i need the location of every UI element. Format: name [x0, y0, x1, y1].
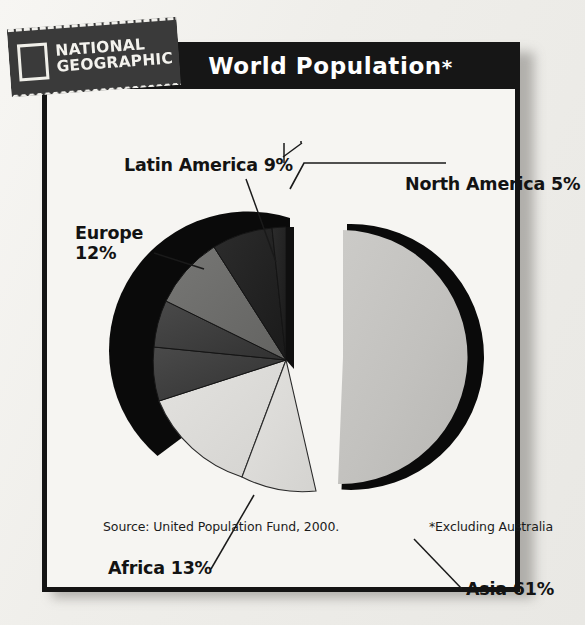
label-africa: Africa 13% [108, 559, 212, 579]
label-north-america: North America 5% [405, 175, 580, 195]
chart-panel: Latin America 9% North America 5% Europe… [42, 42, 520, 592]
page-title: World Population* [194, 53, 453, 79]
label-europe: Europe 12% [75, 224, 143, 263]
ng-yellow-rectangle-icon [17, 42, 50, 81]
national-geographic-logo: NATIONAL GEOGRAPHIC [7, 17, 182, 97]
label-asia: Asia 61% [466, 580, 554, 600]
title-footnote-marker: * [442, 55, 453, 79]
label-latin-america: Latin America 9% [124, 156, 293, 176]
pie-cut-face [286, 227, 294, 369]
logo-stamp-background: NATIONAL GEOGRAPHIC [7, 17, 182, 97]
chart-title-bar: World Population* [127, 42, 520, 89]
chart-footer: Source: United Population Fund, 2000. *E… [94, 512, 562, 540]
footnote: *Excluding Australia [429, 519, 553, 534]
logo-wordmark: NATIONAL GEOGRAPHIC [55, 35, 174, 75]
pie-slice-asia [338, 224, 484, 490]
page-title-text: World Population [208, 53, 442, 79]
source-note: Source: United Population Fund, 2000. [103, 519, 339, 534]
